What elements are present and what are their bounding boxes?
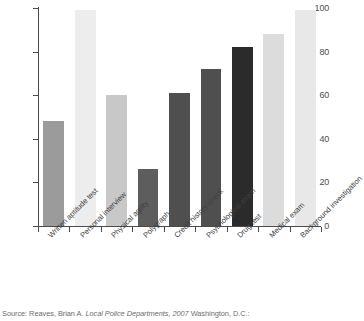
bar (43, 121, 64, 226)
source-suffix: Washington, D.C.: (189, 309, 250, 318)
bar (295, 10, 316, 226)
bar-series (38, 8, 321, 226)
source-note: Source: Reaves, Brian A. Local Police De… (2, 309, 329, 318)
x-axis-category-labels: Written aptitude testPersonal interviewP… (0, 232, 329, 310)
source-title: Local Police Departments, 2007 (85, 309, 188, 318)
bar (263, 34, 284, 226)
source-prefix: Source: Reaves, Brian A. (2, 309, 85, 318)
bar (169, 93, 190, 226)
